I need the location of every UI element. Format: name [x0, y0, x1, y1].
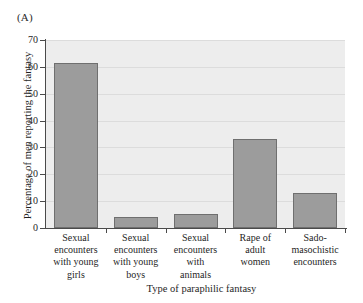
bar	[54, 63, 98, 228]
x-axis-tick-label-line: encounters	[293, 256, 336, 267]
y-axis-tick	[40, 147, 45, 148]
y-axis-tick-label: 70	[12, 35, 38, 45]
x-axis-tick-label: Sado-masochisticencounters	[285, 232, 345, 269]
x-axis-tick-label: Sexualencounterswith youngboys	[106, 232, 166, 281]
panel-label: (A)	[17, 11, 33, 23]
y-axis-tick-label: 10	[12, 196, 38, 206]
y-axis-tick	[40, 201, 45, 202]
x-axis-tick-label-line: Sexual	[122, 232, 149, 243]
y-axis-tick	[40, 121, 45, 122]
bar	[114, 217, 158, 228]
y-axis-tick	[40, 67, 45, 68]
x-axis-tick-label-line: women	[241, 256, 270, 267]
x-axis-tick-label-line: adult	[245, 244, 265, 255]
y-axis-tick-label: 50	[12, 89, 38, 99]
x-axis-tick	[345, 229, 346, 233]
y-axis-tick-label: 40	[12, 116, 38, 126]
y-axis-tick	[40, 174, 45, 175]
x-axis-line	[45, 228, 347, 229]
x-axis-title: Type of paraphilic fantasy	[0, 283, 363, 294]
x-axis-tick-label-line: Sexual	[182, 232, 209, 243]
x-axis-tick-label-line: with young	[53, 256, 98, 267]
x-axis-tick-label-line: encounters	[174, 244, 217, 255]
x-axis-tick-label-line: encounters	[114, 244, 157, 255]
x-axis-tick-label: Sexualencounterswith younggirls	[46, 232, 106, 281]
x-axis-tick-label: Sexualencounterswithanimals	[166, 232, 226, 281]
x-axis-tick-label-line: girls	[67, 269, 85, 280]
gridline	[46, 40, 345, 41]
y-axis-tick-label: 30	[12, 142, 38, 152]
x-axis-tick-label-line: with young	[113, 256, 158, 267]
bar	[293, 193, 337, 228]
y-axis-tick-label: 0	[12, 223, 38, 233]
x-axis-tick-label-line: encounters	[54, 244, 97, 255]
y-axis-tick	[40, 94, 45, 95]
x-axis-tick-label-line: Sexual	[62, 232, 89, 243]
x-axis-tick-label-line: Rape of	[240, 232, 271, 243]
x-axis-tick-label-line: with	[187, 256, 205, 267]
y-axis-tick-label: 60	[12, 62, 38, 72]
x-axis-tick-label: Rape ofadultwomen	[225, 232, 285, 269]
y-axis-line	[45, 39, 46, 229]
x-axis-tick-label-line: Sado-	[303, 232, 326, 243]
x-axis-tick-label-line: masochistic	[291, 244, 338, 255]
x-axis-tick-label-line: animals	[180, 269, 211, 280]
y-axis-tick-label: 20	[12, 169, 38, 179]
bar	[233, 139, 277, 228]
bar	[174, 214, 218, 228]
figure-panel-a: (A) Percentage of men reporting the fant…	[0, 0, 363, 303]
y-axis-tick	[40, 228, 45, 229]
y-axis-tick	[40, 40, 45, 41]
x-axis-tick-label-line: boys	[126, 269, 145, 280]
